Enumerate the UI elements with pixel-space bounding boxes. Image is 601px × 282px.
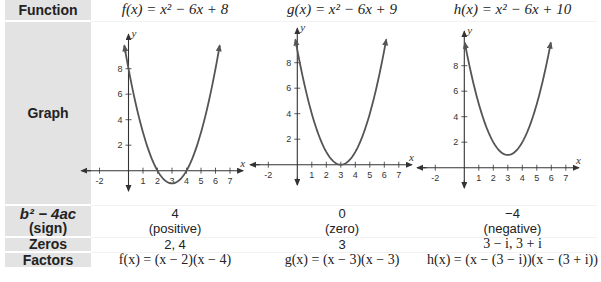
x-tick-label: -2 xyxy=(431,173,439,183)
x-tick-label: 7 xyxy=(563,173,568,183)
x-tick-label: 6 xyxy=(382,170,387,180)
x-tick-label: 6 xyxy=(549,173,554,183)
x-axis-label: x xyxy=(408,151,414,163)
y-axis-label: y xyxy=(466,24,472,36)
x-tick-label: 2 xyxy=(324,170,329,180)
x-tick-label: 2 xyxy=(155,176,160,186)
y-tick-label: 2 xyxy=(286,134,291,144)
parabola-curve xyxy=(296,41,386,165)
x-tick-label: 5 xyxy=(534,173,539,183)
x-tick-label: -2 xyxy=(95,176,103,186)
y-tick-label: 2 xyxy=(117,140,122,150)
x-tick-label: 4 xyxy=(184,176,189,186)
y-tick-label: 6 xyxy=(117,89,122,99)
y-axis-label: y xyxy=(131,27,137,39)
y-tick-label: 6 xyxy=(286,83,291,93)
x-tick-label: 3 xyxy=(338,170,343,180)
graph-g: -212345672468xy xyxy=(250,21,414,185)
y-tick-label: 4 xyxy=(286,109,291,119)
x-tick-label: 4 xyxy=(520,173,525,183)
x-tick-label: 2 xyxy=(491,173,496,183)
curve-arrow-left xyxy=(124,45,125,52)
x-tick-label: 1 xyxy=(476,173,481,183)
x-tick-label: 7 xyxy=(396,170,401,180)
graphs-layer: -212345672468xy -212345672468xy -2123456… xyxy=(0,0,601,282)
x-axis-label: x xyxy=(575,154,581,166)
x-tick-label: -2 xyxy=(264,170,272,180)
x-tick-label: 4 xyxy=(353,170,358,180)
y-tick-label: 8 xyxy=(286,58,291,68)
x-tick-label: 1 xyxy=(140,176,145,186)
x-tick-label: 5 xyxy=(198,176,203,186)
y-tick-label: 4 xyxy=(117,115,122,125)
graph-f: -212345672468xy xyxy=(81,27,245,191)
x-tick-label: 7 xyxy=(227,176,232,186)
y-tick-label: 8 xyxy=(453,61,458,71)
x-tick-label: 3 xyxy=(505,173,510,183)
graph-h: -212345672468xy xyxy=(417,24,581,188)
y-tick-label: 2 xyxy=(453,137,458,147)
curve-arrow-right xyxy=(385,39,386,45)
y-tick-label: 4 xyxy=(453,112,458,122)
curve-arrow-right xyxy=(219,45,220,51)
curve-arrow-right xyxy=(550,43,551,48)
y-tick-label: 8 xyxy=(117,64,122,74)
y-tick-label: 6 xyxy=(453,86,458,96)
x-tick-label: 1 xyxy=(309,170,314,180)
x-axis-label: x xyxy=(239,157,245,169)
y-axis-label: y xyxy=(299,21,305,33)
curve-arrow-left xyxy=(465,43,466,50)
x-tick-label: 5 xyxy=(367,170,372,180)
parabola-curve xyxy=(465,44,551,155)
parabola-curve xyxy=(125,47,220,183)
x-tick-label: 6 xyxy=(213,176,218,186)
curve-arrow-left xyxy=(295,39,296,46)
